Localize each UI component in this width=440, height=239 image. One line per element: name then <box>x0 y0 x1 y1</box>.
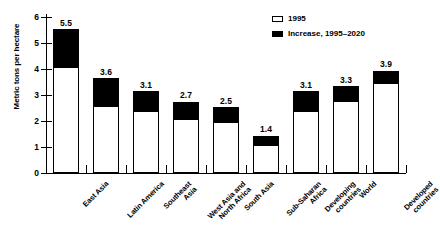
y-axis-tick-label: 3 <box>26 91 39 100</box>
bar-1995-segment <box>293 92 319 173</box>
x-axis-label: Latin America <box>126 180 166 220</box>
bar-1995-segment <box>133 92 159 173</box>
bar-1995-segment <box>333 87 359 173</box>
bar-increase-segment <box>253 136 279 146</box>
bar-1995-segment <box>213 108 239 173</box>
category-separator <box>326 165 327 173</box>
bar-increase-segment <box>373 71 399 84</box>
y-axis-tick-label: 4 <box>26 65 39 74</box>
bar-1995-segment <box>373 72 399 173</box>
bar-increase-segment <box>133 91 159 112</box>
y-axis-tick-inner <box>46 121 52 122</box>
y-axis-tick-inner <box>46 69 52 70</box>
bar-group: 2.7 <box>173 17 199 173</box>
category-separator <box>246 165 247 173</box>
y-axis-tick-label: 6 <box>26 13 39 22</box>
bar-value-label: 1.4 <box>260 125 272 134</box>
bar-group: 3.1 <box>133 17 159 173</box>
y-axis-tick-label: 0 <box>26 169 39 178</box>
category-separator <box>366 165 367 173</box>
x-axis-label: Developing countries <box>324 180 363 219</box>
legend-swatch-increase-icon <box>272 31 283 37</box>
bar-value-label: 3.9 <box>380 60 392 69</box>
bar-value-label: 3.3 <box>340 76 352 85</box>
category-separator <box>166 165 167 173</box>
category-separator <box>46 165 47 173</box>
bar-value-label: 3.1 <box>300 81 312 90</box>
category-separator <box>86 165 87 173</box>
bar-increase-segment <box>213 107 239 123</box>
bar-1995-segment <box>253 137 279 173</box>
legend-label-increase: Increase, 1995–2020 <box>288 29 365 38</box>
category-separator <box>286 165 287 173</box>
bar-increase-segment <box>53 29 79 68</box>
legend-item-1995: 1995 <box>272 14 365 23</box>
bar-1995-segment <box>93 79 119 173</box>
legend-swatch-1995-icon <box>272 16 283 22</box>
y-axis-tick-label: 5 <box>26 39 39 48</box>
legend-label-1995: 1995 <box>288 14 306 23</box>
bar-group: 3.6 <box>93 17 119 173</box>
bar-increase-segment <box>333 86 359 102</box>
bar-increase-segment <box>293 91 319 112</box>
y-axis-tick-inner <box>46 173 52 174</box>
bar-value-label: 2.5 <box>220 97 232 106</box>
bar-increase-segment <box>93 78 119 107</box>
x-axis-line <box>46 173 406 174</box>
x-axis-label: Sub-Saharan Africa <box>285 180 328 223</box>
y-axis-tick-label: 2 <box>26 117 39 126</box>
y-axis-tick-inner <box>46 43 52 44</box>
x-axis-label: Southeast Asia <box>162 180 198 216</box>
category-separator <box>206 165 207 173</box>
bar-1995-segment <box>173 103 199 173</box>
bar-value-label: 3.1 <box>140 81 152 90</box>
x-axis-label: World <box>358 180 378 200</box>
bar-value-label: 3.6 <box>100 68 112 77</box>
chart-legend: 1995 Increase, 1995–2020 <box>272 14 365 44</box>
category-separator <box>126 165 127 173</box>
legend-item-increase: Increase, 1995–2020 <box>272 29 365 38</box>
y-axis-tick-inner <box>46 95 52 96</box>
bar-value-label: 2.7 <box>180 91 192 100</box>
bar-group: 3.9 <box>373 17 399 173</box>
y-axis-tick-inner <box>46 147 52 148</box>
bar-1995-segment <box>53 30 79 173</box>
bar-group: 5.5 <box>53 17 79 173</box>
y-axis-line <box>46 14 47 173</box>
category-separator <box>406 165 407 173</box>
y-axis-tick-inner <box>46 17 52 18</box>
x-axis-label: East Asia <box>82 180 111 209</box>
y-axis-tick-label: 1 <box>26 143 39 152</box>
bar-group: 2.5 <box>213 17 239 173</box>
x-axis-label: Developed countries <box>403 180 440 217</box>
bar-value-label: 5.5 <box>60 19 72 28</box>
bar-increase-segment <box>173 102 199 120</box>
y-axis-title: Metric tons per hectare <box>12 7 21 127</box>
